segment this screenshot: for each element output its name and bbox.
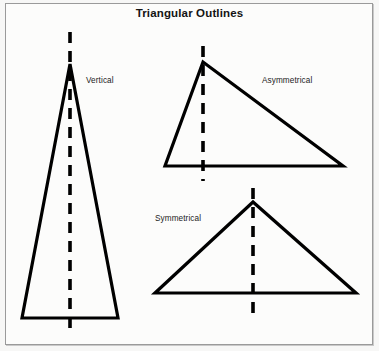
shape-symmetrical [155,188,356,321]
figure-root: Triangular Outlines Vertical Asymmetrica… [0,0,379,351]
shape-label-vertical: Vertical [86,76,114,85]
triangle-asymmetrical-outline [165,62,343,166]
shape-label-symmetrical: Symmetrical [155,214,201,223]
triangles-canvas [0,0,379,351]
shape-asymmetrical [165,46,343,181]
shape-label-asymmetrical: Asymmetrical [262,76,312,85]
